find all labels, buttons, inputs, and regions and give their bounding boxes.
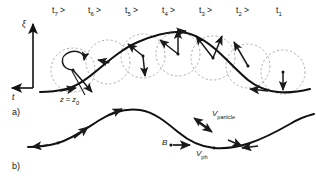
displacement-vector (143, 56, 145, 76)
b-field-label: B (162, 139, 167, 147)
v-phase-label: Vph (196, 150, 207, 160)
b-field-indicator (169, 143, 190, 146)
figure-canvas (0, 0, 316, 180)
z-depth-annotation: z = z0 (60, 96, 79, 106)
time-label-t3: t3 > (199, 6, 212, 17)
z-annotation-leader (72, 71, 85, 95)
xi-axis-label: ξ (22, 20, 26, 29)
v-particle-label: Vparticle (212, 110, 235, 120)
wave-b-markers (57, 142, 216, 150)
displacement-vector (234, 42, 248, 66)
panel-a-label: a) (12, 108, 20, 117)
velocity-arrow (228, 140, 242, 146)
orbit-centers (72, 53, 285, 74)
panel-b-group (28, 106, 314, 150)
v-particle-leader (194, 118, 208, 128)
panel-b-label: b) (12, 162, 20, 171)
displacement-vector (196, 36, 213, 58)
velocity-arrow (74, 127, 88, 138)
time-label-t7: t7 > (52, 6, 65, 17)
wave-particle-figure: t7 > t6 > t5 > t4 > t3 > t2 > t1 ξ t z =… (0, 0, 316, 180)
rotation-arrow (62, 51, 84, 70)
time-label-t5: t5 > (125, 6, 138, 17)
time-label-t2: t2 > (236, 6, 249, 17)
panel-a-group (12, 24, 310, 95)
time-label-t1: t1 (276, 6, 282, 17)
time-label-t4: t4 > (162, 6, 175, 17)
velocity-arrow (242, 146, 258, 148)
t-axis-label: t (12, 93, 14, 102)
time-label-t6: t6 > (88, 6, 101, 17)
wave-a-tangent-arrows (60, 31, 268, 91)
wave-b (28, 109, 314, 148)
velocity-arrow (198, 122, 212, 132)
